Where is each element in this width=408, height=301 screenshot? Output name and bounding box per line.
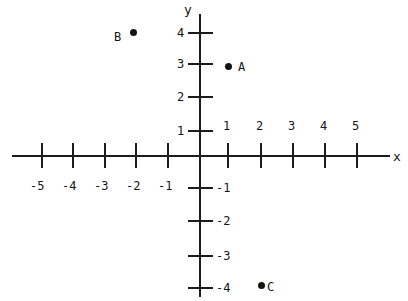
y-tick-label-minus1: -1: [216, 182, 230, 194]
y-tick-2: [188, 96, 213, 98]
x-tick-label-5: 5: [352, 120, 359, 132]
x-tick-label-minus1: -1: [158, 180, 172, 192]
coordinate-plane-figure: -5 -4 -3 -2 -1 1 2 3 4 5 4 3 2 1 -1 -2 -…: [0, 0, 408, 301]
x-tick-label-minus5: -5: [30, 180, 44, 192]
point-a-dot: [225, 63, 232, 70]
x-tick-minus3: [104, 143, 106, 168]
x-tick-2: [260, 143, 262, 168]
x-tick-label-minus4: -4: [62, 180, 76, 192]
y-tick-label-minus2: -2: [216, 215, 230, 227]
x-axis-line: [12, 155, 390, 157]
x-axis-label: x: [393, 150, 401, 163]
x-tick-3: [292, 143, 294, 168]
x-tick-minus4: [72, 143, 74, 168]
point-b-label: B: [114, 31, 121, 43]
y-tick-label-1: 1: [177, 125, 184, 137]
y-tick-3: [188, 63, 213, 65]
x-tick-minus5: [41, 143, 43, 168]
y-tick-minus2: [188, 220, 213, 222]
x-tick-label-minus3: -3: [94, 180, 108, 192]
x-tick-minus2: [135, 143, 137, 168]
x-tick-label-4: 4: [320, 120, 327, 132]
y-tick-minus4: [188, 287, 213, 289]
x-tick-label-minus2: -2: [126, 180, 140, 192]
point-c-dot: [258, 282, 265, 289]
x-tick-label-2: 2: [256, 120, 263, 132]
x-tick-label-3: 3: [288, 120, 295, 132]
point-c-label: C: [267, 281, 274, 293]
y-tick-label-3: 3: [177, 58, 184, 70]
point-b-dot: [130, 29, 137, 36]
y-tick-minus1: [188, 187, 213, 189]
y-tick-label-minus4: -4: [216, 282, 230, 294]
y-tick-minus3: [188, 255, 213, 257]
x-tick-label-1: 1: [223, 120, 230, 132]
x-tick-minus1: [167, 143, 169, 168]
point-a-label: A: [238, 61, 245, 73]
y-tick-label-4: 4: [177, 27, 184, 39]
y-tick-1: [188, 130, 213, 132]
y-tick-label-minus3: -3: [216, 250, 230, 262]
x-tick-4: [324, 143, 326, 168]
y-tick-label-2: 2: [177, 91, 184, 103]
y-axis-label: y: [184, 3, 192, 16]
y-tick-4: [188, 32, 213, 34]
x-tick-5: [356, 143, 358, 168]
x-tick-1: [227, 143, 229, 168]
